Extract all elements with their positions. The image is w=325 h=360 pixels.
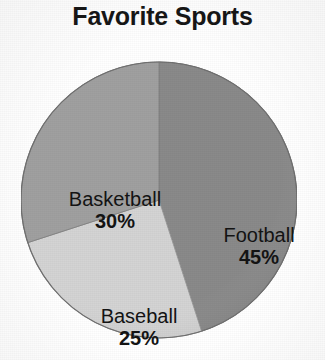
slice-label-football-percent: 45% bbox=[207, 246, 311, 268]
pie-chart-figure: Favorite Sports bbox=[0, 0, 325, 360]
slice-label-football-name: Football bbox=[207, 224, 311, 246]
slice-label-football: Football 45% bbox=[207, 224, 311, 268]
slice-label-baseball-percent: 25% bbox=[77, 327, 201, 349]
slice-label-basketball-name: Basketball bbox=[50, 188, 180, 210]
pie-chart-graphic: Basketball 30% Football 45% Baseball 25% bbox=[21, 56, 297, 346]
chart-title: Favorite Sports bbox=[0, 3, 325, 29]
slice-label-baseball: Baseball 25% bbox=[77, 305, 201, 349]
slice-label-basketball-percent: 30% bbox=[50, 210, 180, 232]
slice-label-baseball-name: Baseball bbox=[77, 305, 201, 327]
slice-label-basketball: Basketball 30% bbox=[50, 188, 180, 232]
